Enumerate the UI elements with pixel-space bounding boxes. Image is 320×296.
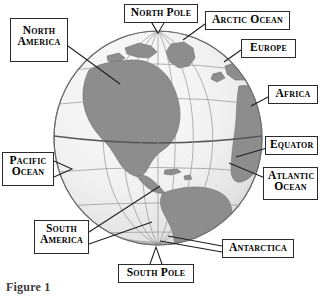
label-north-america-line-2: America <box>15 36 63 47</box>
label-south-pole-line-1: South Pole <box>123 267 189 278</box>
label-pacific-ocean[interactable]: Pacific Ocean <box>2 152 54 186</box>
label-south-america[interactable]: South America <box>34 220 89 254</box>
label-africa[interactable]: Africa <box>268 85 318 104</box>
label-equator-line-1: Equator <box>270 139 313 150</box>
label-equator[interactable]: Equator <box>265 136 318 155</box>
label-north-america[interactable]: North America <box>10 18 68 62</box>
label-europe-line-1: Europe <box>246 42 291 53</box>
label-arctic-ocean-line-1: Arctic Ocean <box>210 14 285 25</box>
globe-svg <box>53 30 263 246</box>
label-atlantic-ocean[interactable]: Atlantic Ocean <box>263 167 318 200</box>
label-north-pole[interactable]: North Pole <box>124 4 198 23</box>
label-arctic-ocean[interactable]: Arctic Ocean <box>205 11 290 30</box>
label-antarctica[interactable]: Antarctica <box>222 239 294 258</box>
figure-caption: Figure 1 <box>6 280 50 295</box>
label-atlantic-ocean-line-2: Ocean <box>268 181 313 192</box>
label-pacific-ocean-line-2: Ocean <box>7 166 49 177</box>
label-south-pole[interactable]: South Pole <box>118 264 194 283</box>
globe-image <box>53 30 263 246</box>
figure-globe-diagram: North Pole Arctic Ocean Europe Africa Eq… <box>0 0 320 296</box>
leader-south-pole <box>150 247 162 264</box>
label-south-america-line-2: America <box>39 234 84 245</box>
label-europe[interactable]: Europe <box>241 39 296 58</box>
label-africa-line-1: Africa <box>273 88 313 99</box>
label-north-pole-line-1: North Pole <box>129 7 193 18</box>
label-antarctica-line-1: Antarctica <box>227 242 289 253</box>
